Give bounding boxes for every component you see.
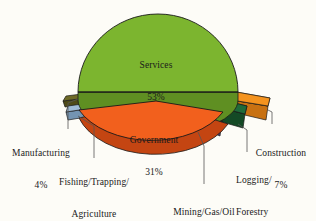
slice-label-fishing-line2: Agriculture xyxy=(46,209,142,220)
slice-label-construction: Construction 7% xyxy=(247,127,315,212)
slice-label-fishing-trapping-agriculture: Fishing/Trapping/ Agriculture 2% xyxy=(46,156,142,221)
leader-line-construction xyxy=(268,110,272,124)
slice-label-fishing-line1: Fishing/Trapping/ xyxy=(46,177,142,188)
slice-label-services-value: 53% xyxy=(110,92,202,103)
pie-chart: Services 53% Government 31% Manufacturin… xyxy=(0,0,316,221)
slice-label-construction-value: 7% xyxy=(247,180,315,191)
slice-label-services: Services 53% xyxy=(110,39,202,124)
slice-label-construction-name: Construction xyxy=(247,148,315,159)
slice-label-services-name: Services xyxy=(110,60,202,71)
slice-label-government-name: Government xyxy=(104,135,204,146)
